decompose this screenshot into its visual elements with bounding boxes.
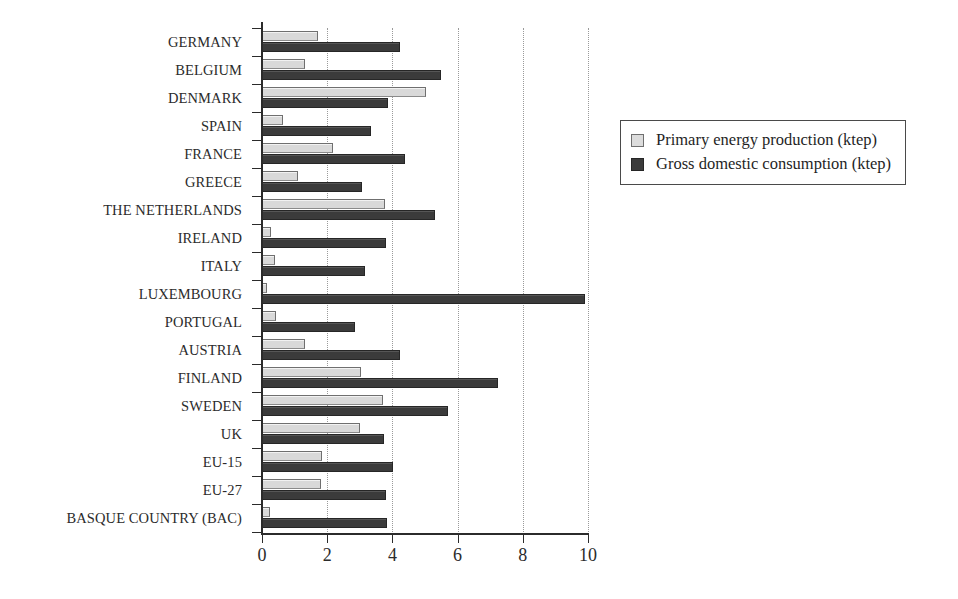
bar-gross-domestic-consumption: [262, 154, 405, 164]
y-axis-tick: [252, 392, 261, 393]
bar-primary-energy-production: [262, 451, 322, 461]
bar-gross-domestic-consumption: [262, 210, 435, 220]
bar-primary-energy-production: [262, 87, 426, 97]
x-axis-tick: [327, 535, 328, 543]
x-axis-tick-label: 0: [242, 545, 282, 566]
x-axis-tick-label: 2: [307, 545, 347, 566]
legend-swatch-dark-square: [631, 158, 644, 171]
y-axis-tick: [252, 280, 261, 281]
plot-area: [262, 22, 588, 532]
bar-group: [262, 420, 588, 448]
category-label: PORTUGAL: [165, 308, 242, 336]
y-axis-tick: [252, 532, 261, 533]
x-axis-tick-label: 8: [503, 545, 543, 566]
category-label: SWEDEN: [181, 392, 242, 420]
category-label: EU-15: [203, 448, 242, 476]
y-axis-tick: [252, 448, 261, 449]
category-label: LUXEMBOURG: [139, 280, 242, 308]
category-label: ITALY: [201, 252, 242, 280]
bar-group: [262, 84, 588, 112]
bar-group: [262, 252, 588, 280]
bar-gross-domestic-consumption: [262, 266, 365, 276]
category-label: IRELAND: [178, 224, 242, 252]
bar-primary-energy-production: [262, 339, 305, 349]
bar-primary-energy-production: [262, 115, 283, 125]
y-axis-tick: [252, 224, 261, 225]
category-label: AUSTRIA: [178, 336, 242, 364]
legend-item-primary-energy-production: Primary energy production (ktep): [631, 128, 891, 152]
x-axis-tick: [392, 535, 393, 543]
bar-gross-domestic-consumption: [262, 518, 387, 528]
category-label: GREECE: [185, 168, 242, 196]
y-axis-tick: [252, 196, 261, 197]
bar-gross-domestic-consumption: [262, 294, 585, 304]
bar-group: [262, 224, 588, 252]
bar-gross-domestic-consumption: [262, 238, 386, 248]
bar-group: [262, 28, 588, 56]
bar-gross-domestic-consumption: [262, 490, 386, 500]
bar-primary-energy-production: [262, 507, 270, 517]
bar-primary-energy-production: [262, 367, 361, 377]
y-axis-tick: [252, 112, 261, 113]
bar-gross-domestic-consumption: [262, 434, 384, 444]
bar-gross-domestic-consumption: [262, 406, 448, 416]
bar-primary-energy-production: [262, 199, 385, 209]
category-label: SPAIN: [201, 112, 242, 140]
bar-gross-domestic-consumption: [262, 70, 441, 80]
chart-legend: Primary energy production (ktep) Gross d…: [620, 120, 906, 185]
bar-gross-domestic-consumption: [262, 350, 400, 360]
bar-gross-domestic-consumption: [262, 42, 400, 52]
bar-group: [262, 56, 588, 84]
bar-primary-energy-production: [262, 227, 271, 237]
x-axis-tick-label: 6: [438, 545, 478, 566]
bar-group: [262, 476, 588, 504]
category-label: THE NETHERLANDS: [103, 196, 242, 224]
category-label: GERMANY: [168, 28, 242, 56]
bar-primary-energy-production: [262, 31, 318, 41]
y-axis-tick: [252, 140, 261, 141]
bar-group: [262, 504, 588, 532]
bar-gross-domestic-consumption: [262, 182, 362, 192]
category-axis-labels: GERMANYBELGIUMDENMARKSPAINFRANCEGREECETH…: [0, 28, 252, 532]
category-label: FRANCE: [184, 140, 242, 168]
x-axis-tick: [262, 535, 263, 543]
bar-primary-energy-production: [262, 59, 305, 69]
category-label: EU-27: [203, 476, 242, 504]
category-label: BELGIUM: [175, 56, 242, 84]
y-axis-tick: [252, 504, 261, 505]
bar-group: [262, 364, 588, 392]
legend-label-primary-energy-production: Primary energy production (ktep): [656, 130, 877, 150]
bar-gross-domestic-consumption: [262, 322, 355, 332]
bar-primary-energy-production: [262, 311, 276, 321]
bar-group: [262, 112, 588, 140]
bar-primary-energy-production: [262, 143, 333, 153]
x-axis-line: [261, 533, 589, 535]
bar-group: [262, 168, 588, 196]
y-axis-line: [261, 22, 263, 534]
x-axis-tick: [523, 535, 524, 543]
bar-group: [262, 448, 588, 476]
legend-swatch-light-square: [631, 134, 644, 147]
bar-group: [262, 196, 588, 224]
category-label: DENMARK: [168, 84, 242, 112]
y-axis-tick: [252, 308, 261, 309]
x-axis-tick: [458, 535, 459, 543]
y-axis-tick: [252, 28, 261, 29]
bar-group: [262, 280, 588, 308]
x-axis-tick-label: 4: [372, 545, 412, 566]
bar-gross-domestic-consumption: [262, 462, 393, 472]
y-axis-tick: [252, 420, 261, 421]
bar-primary-energy-production: [262, 479, 321, 489]
category-label: FINLAND: [178, 364, 242, 392]
legend-item-gross-domestic-consumption: Gross domestic consumption (ktep): [631, 152, 891, 176]
y-axis-tick: [252, 336, 261, 337]
bar-gross-domestic-consumption: [262, 126, 371, 136]
x-axis-tick-label: 10: [568, 545, 608, 566]
y-axis-tick: [252, 84, 261, 85]
bar-group: [262, 308, 588, 336]
bar-primary-energy-production: [262, 423, 360, 433]
category-label: BASQUE COUNTRY (BAC): [67, 504, 242, 532]
x-axis-tick: [588, 535, 589, 543]
legend-label-gross-domestic-consumption: Gross domestic consumption (ktep): [656, 154, 891, 174]
bar-primary-energy-production: [262, 395, 383, 405]
